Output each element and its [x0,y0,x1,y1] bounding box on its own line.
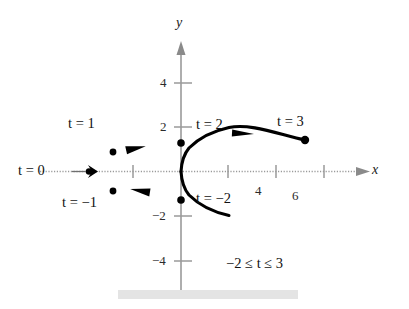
direction-arrows [125,129,254,196]
x-tick-4: 4 [255,184,262,197]
y-axis-label: y [176,16,182,30]
point-t3 [301,136,309,144]
point-t1 [110,149,117,156]
annotation-t-equals-2: t = 2 [196,117,223,132]
point-t2 [177,139,185,147]
annotation-t-equals-0: t = 0 [18,163,45,178]
annotation-t-equals-1: t = 1 [68,116,95,131]
x-tick-6: 6 [292,189,299,202]
annotation-t-equals-3: t = 3 [277,114,304,129]
y-tick-2: 2 [160,120,167,133]
parameter-range-label: −2 ≤ t ≤ 3 [226,256,283,271]
y-tick-minus-4: −4 [152,254,166,267]
caption-placeholder-bar [118,290,298,299]
y-tick-minus-2: −2 [152,209,166,222]
plot-canvas [0,0,409,309]
point-tm1 [110,188,117,195]
x-axis-label: x [372,163,378,177]
annotation-t-equals-minus-1: t = −1 [62,195,97,210]
y-tick-4: 4 [160,76,167,89]
parametric-curve-figure: x y 4 2 −2 −4 4 6 t = 0 t = 1 t = −1 t =… [0,0,409,309]
point-tm2 [177,196,185,204]
annotation-t-equals-minus-2: t = −2 [196,191,231,206]
